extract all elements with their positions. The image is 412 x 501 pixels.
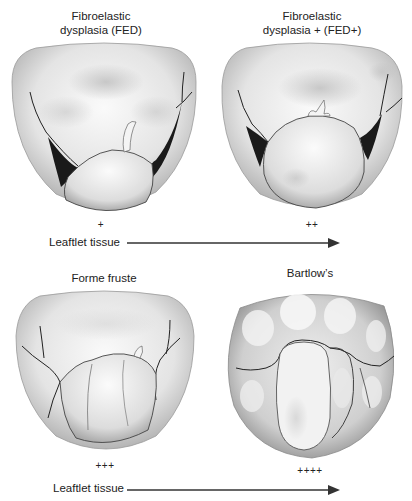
panel-title-fed-line1: Fibroelastic: [30, 10, 172, 24]
leaflet-tissue-label-bottom: Leaftlet tissue: [53, 482, 124, 494]
valve-illustration-barlows: [220, 288, 400, 460]
panel-title-fed-line2: dysplasia (FED): [30, 24, 172, 38]
panel-title-fed-plus-line2: dysplasia + (FED+): [236, 24, 388, 38]
arrow-top: [126, 237, 342, 249]
panel-title-barlows: Bartlow’s: [262, 267, 358, 281]
valve-illustration-fed: [6, 42, 202, 214]
panel-title-fed-plus: Fibroelastic dysplasia + (FED+): [236, 10, 388, 37]
grade-fed-plus: ++: [298, 219, 326, 230]
arrow-bottom: [126, 484, 342, 496]
panel-title-forme-fruste: Forme fruste: [54, 272, 154, 286]
valve-illustration-fed-plus: [212, 42, 408, 214]
valve-illustration-forme-fruste: [10, 290, 200, 458]
panel-title-fed: Fibroelastic dysplasia (FED): [30, 10, 172, 37]
panel-title-fed-plus-line1: Fibroelastic: [236, 10, 388, 24]
grade-barlows: ++++: [290, 465, 330, 476]
leaflet-tissue-label-top: Leaftlet tissue: [49, 236, 120, 248]
grade-fed: +: [88, 219, 114, 230]
grade-forme-fruste: +++: [88, 460, 122, 471]
